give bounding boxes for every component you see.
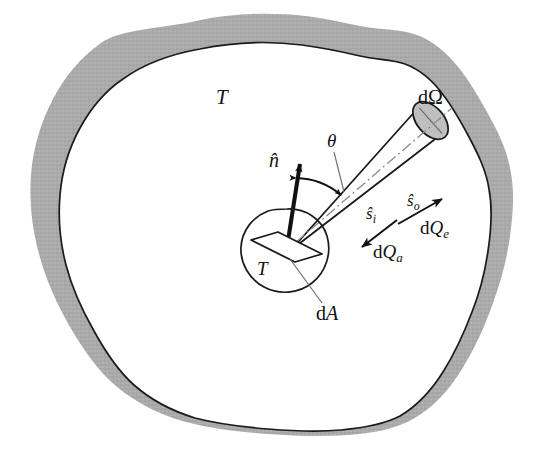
radiative-enclosure-figure: T dΩ n̂ θ T xyxy=(0,0,547,449)
s-hat-i-subscript: i xyxy=(373,212,376,226)
dQa-Q-glyph: Q xyxy=(383,241,397,262)
enclosure-temperature-label: T xyxy=(216,85,229,109)
dA-A-glyph: A xyxy=(324,302,339,324)
dQe-subscript: e xyxy=(443,226,449,241)
diagram-canvas: T dΩ n̂ θ T xyxy=(0,0,547,449)
element-temperature-label: T xyxy=(257,258,269,279)
normal-vector-label: n̂ xyxy=(269,149,279,171)
dQa-subscript: a xyxy=(396,250,403,265)
s-hat-o-subscript: o xyxy=(414,199,420,213)
dA-d-glyph: d xyxy=(316,302,326,324)
area-element-label: dA xyxy=(316,302,339,324)
dQa-d-glyph: d xyxy=(373,241,383,262)
dQe-d-glyph: d xyxy=(420,217,430,238)
solid-angle-label: dΩ xyxy=(418,86,443,108)
dQe-Q-glyph: Q xyxy=(430,217,444,238)
theta-label: θ xyxy=(327,130,336,151)
